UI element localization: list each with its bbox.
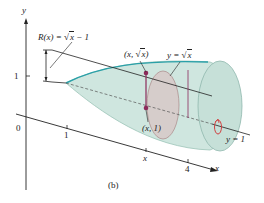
origin-label: 0 [16,124,21,133]
point-top-label: (x, √x) [124,50,148,59]
point-bottom-label: (x, 1) [142,124,161,133]
x-tick-1: 1 [64,131,69,140]
figure-graphics [0,0,264,203]
x-axis-label: x [215,164,219,173]
axis-of-rotation-label: y = 1 [226,135,245,144]
point-bottom [144,106,149,111]
y-tick-1: 1 [14,72,19,81]
radius-label: R(x) = √x − 1 [38,33,89,42]
solid-of-revolution-figure: y 1 0 1 x 4 x R(x) = √x − 1 (x, √x) y = … [0,0,264,203]
x-tick-4: 4 [185,165,190,174]
curve-label: y = √x [167,51,192,60]
figure-caption: (b) [108,181,119,190]
x-tick-x: x [143,154,147,163]
y-axis-label: y [22,6,26,15]
